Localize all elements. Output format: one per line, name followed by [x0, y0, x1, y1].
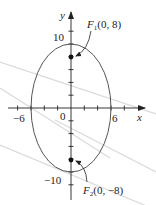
- y-tick-label-10: 10: [53, 31, 65, 43]
- focus-f1-coords: (0, 8): [97, 18, 121, 31]
- y-axis-label: y: [59, 9, 65, 21]
- focus-f2-coords: (0, −8): [93, 184, 123, 197]
- focus-f1-dot: [69, 55, 74, 60]
- x-tick-label-6: 6: [112, 112, 118, 124]
- x-tick-label-neg6: −6: [13, 112, 25, 124]
- x-axis-label: x: [136, 111, 142, 123]
- focus-f1-pointer: [76, 31, 91, 56]
- y-tick-label-neg10: −10: [44, 174, 62, 186]
- x-tick-label-0: 0: [60, 110, 66, 122]
- focus-f1-label: F1(0, 8): [86, 18, 121, 32]
- focus-f2-label: F2(0, −8): [82, 184, 124, 198]
- focus-f2-dot: [69, 158, 74, 163]
- background-lines: [0, 62, 156, 205]
- ellipse-figure: y x 10 −10 −6 0 6 F1(0, 8) F2(0, −8): [0, 0, 156, 205]
